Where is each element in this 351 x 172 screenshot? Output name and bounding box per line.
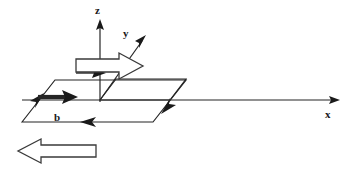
inner-plane-group: [100, 79, 186, 100]
z-axis-label: z: [95, 4, 100, 16]
z-axis: z: [95, 4, 104, 102]
figure-root: x z y: [0, 0, 351, 172]
dislocation-motion-arrow: [76, 53, 143, 79]
burgers-vector-label: b: [54, 111, 60, 123]
dislocation-slip-diagram: x z y: [0, 0, 351, 172]
x-axis-label: x: [325, 108, 331, 120]
inner-slipped-region: [100, 79, 186, 100]
dislocation-motion-arrow-icon: [76, 53, 143, 79]
axis-group: x z y: [22, 4, 340, 120]
burgers-vector-group: b: [38, 90, 78, 123]
slip-plane-group: [22, 80, 186, 127]
y-axis-arrowhead: [135, 35, 146, 48]
applied-shear-arrow-icon: [18, 139, 96, 163]
applied-shear-arrow: [18, 139, 96, 163]
slip-plane-parallelogram: [22, 80, 186, 122]
y-axis-label: y: [123, 27, 129, 39]
